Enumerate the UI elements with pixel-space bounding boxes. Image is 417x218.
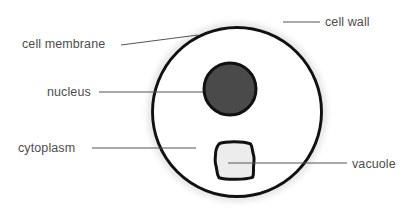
cell-diagram: cell wall cell membrane nucleus cytoplas… xyxy=(0,0,417,218)
label-nucleus: nucleus xyxy=(47,85,91,99)
label-vacuole: vacuole xyxy=(352,157,396,171)
vacuole-shape xyxy=(215,142,254,180)
label-cell-wall: cell wall xyxy=(325,15,370,29)
label-cell-membrane: cell membrane xyxy=(22,37,105,51)
cell-diagram-canvas xyxy=(0,0,417,218)
nucleus-shape xyxy=(204,63,256,115)
label-cytoplasm: cytoplasm xyxy=(18,141,75,155)
